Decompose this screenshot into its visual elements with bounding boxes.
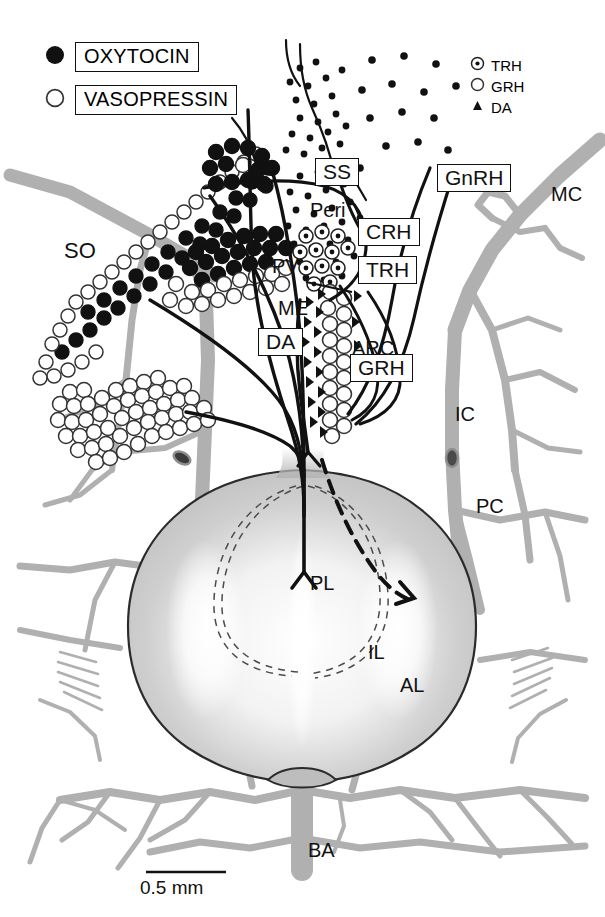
label-mc: MC	[551, 184, 582, 204]
label-peri: Peri	[310, 200, 346, 220]
legend-secondary: TRH GRH DA	[470, 56, 524, 119]
label-da: DA	[258, 328, 303, 356]
peri-trh-cells	[293, 225, 355, 291]
legend-oxytocin-row: OXYTOCIN	[44, 42, 199, 72]
legend-vasopressin-label: VASOPRESSIN	[75, 85, 237, 115]
label-trh: TRH	[358, 256, 417, 284]
label-ba: BA	[308, 840, 335, 860]
legend-grh-label: GRH	[491, 78, 524, 95]
arc-nucleus-grh-cells	[321, 285, 352, 444]
label-crh: CRH	[358, 218, 420, 246]
label-al: AL	[400, 675, 424, 695]
label-gnrh: GnRH	[437, 164, 511, 192]
legend-da-row: DA	[470, 98, 524, 116]
legend-grh-row: GRH	[470, 77, 524, 95]
open-circle-icon	[470, 77, 485, 95]
label-me: ME	[278, 298, 308, 318]
filled-circle-icon	[44, 44, 66, 70]
scale-bar-label: 0.5 mm	[140, 878, 203, 897]
figure-panel: OXYTOCIN VASOPRESSIN TRH GRH DA SS Gn	[0, 0, 605, 917]
so-ventral-vasopressin	[51, 371, 216, 470]
label-il: IL	[368, 642, 385, 662]
label-pl: PL	[310, 573, 334, 593]
diagram-canvas	[0, 0, 605, 917]
legend-oxytocin-label: OXYTOCIN	[75, 42, 199, 72]
legend-trh-row: TRH	[470, 56, 524, 74]
pituitary-gland	[128, 448, 476, 788]
dotted-circle-icon	[470, 56, 485, 74]
open-circle-icon	[44, 87, 66, 113]
legend-trh-label: TRH	[491, 57, 522, 74]
label-ss: SS	[315, 158, 359, 186]
label-ic: IC	[455, 404, 475, 424]
legend-vasopressin-row: VASOPRESSIN	[44, 85, 237, 115]
legend-da-label: DA	[491, 99, 512, 116]
label-pv: PV	[272, 256, 299, 276]
label-arc: ARC	[352, 338, 394, 358]
label-pc: PC	[476, 496, 504, 516]
filled-triangle-icon	[470, 98, 485, 116]
label-so: SO	[64, 240, 96, 262]
